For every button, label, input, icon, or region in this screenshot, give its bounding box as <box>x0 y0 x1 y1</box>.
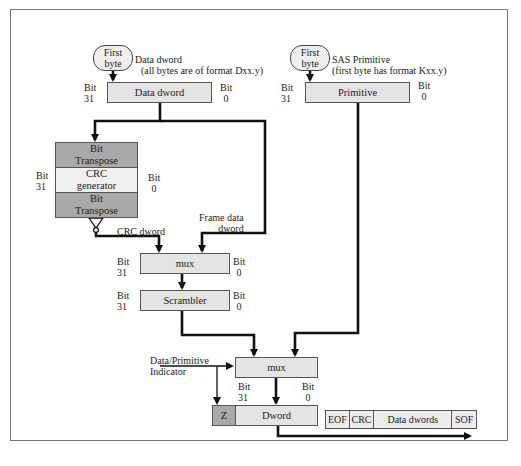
mux1-box: mux <box>140 253 230 274</box>
data-dword-caption: Data dword (all bytes are of format Dxx.… <box>135 54 263 76</box>
first-byte-oval-primitive: First byte <box>290 45 330 71</box>
crc-dword-label: CRC dword <box>117 226 165 237</box>
mux2-box: mux <box>235 357 318 378</box>
frame-strip: EOF CRC Data dwords SOF <box>325 410 477 429</box>
crc-generator: CRCgenerator <box>55 167 138 193</box>
sas-primitive-caption: SAS Primitive (first byte has format Kxx… <box>332 54 447 76</box>
scrambler-bit0: Bit0 <box>233 290 245 312</box>
first-byte-line2: byte <box>104 58 122 69</box>
data-dwords-cell: Data dwords <box>374 411 452 428</box>
data-primitive-indicator-label: Data/Primitive Indicator <box>150 355 209 377</box>
primitive-bit31: Bit31 <box>281 82 293 104</box>
crc-bit31: Bit31 <box>36 170 48 192</box>
primitive-bit0: Bit0 <box>418 80 430 102</box>
sof-cell: SOF <box>452 411 476 428</box>
data-dword-bit31: Bit31 <box>84 82 96 104</box>
data-dword-bit0: Bit0 <box>220 82 232 104</box>
z-box: Z <box>212 405 236 426</box>
crc-bit0: Bit0 <box>148 172 160 194</box>
mux1-bit0: Bit0 <box>233 256 245 278</box>
first-byte-line1: First <box>104 47 122 58</box>
dword-box: Dword <box>235 405 318 426</box>
primitive-box: Primitive <box>305 82 410 103</box>
scrambler-bit31: Bit31 <box>117 290 129 312</box>
scrambler-box: Scrambler <box>140 290 230 311</box>
dword-bit31: Bit31 <box>238 381 250 403</box>
bit-transpose-top: BitTranspose <box>55 142 138 168</box>
crc-cell: CRC <box>350 411 375 428</box>
first-byte-oval-data: First byte <box>93 45 133 71</box>
frame-data-dword-label: Frame data dword <box>199 212 244 234</box>
bit-transpose-bottom: BitTranspose <box>55 192 138 218</box>
mux1-bit31: Bit31 <box>117 256 129 278</box>
eof-cell: EOF <box>326 411 350 428</box>
data-dword-box: Data dword <box>107 82 212 103</box>
dword-bit0: Bit0 <box>302 381 314 403</box>
